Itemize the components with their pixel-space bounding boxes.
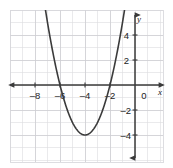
x-axis-label: x [157,87,162,97]
figure-background [0,0,173,168]
graph-figure: –8 –6 –4 –2 0 4 2 –2 –4 x y [0,0,173,168]
y-tick-label-neg2: –2 [120,105,131,116]
y-tick-label-4: 4 [124,30,129,41]
y-axis-label: y [136,14,141,24]
coordinate-plane-svg: –8 –6 –4 –2 0 4 2 –2 –4 x y [0,0,173,168]
y-tick-label-neg4: –4 [120,130,131,141]
x-tick-label-zero: 0 [141,90,146,101]
x-tick-label-neg4: –4 [80,90,91,101]
y-tick-label-2: 2 [124,55,129,66]
x-tick-label-neg8: –8 [30,90,41,101]
